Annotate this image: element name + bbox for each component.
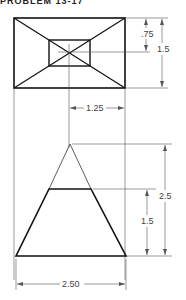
technical-drawing: .75 1.5 1.25 2.5 1.5 xyxy=(0,0,186,300)
apex-construction-line xyxy=(70,144,91,189)
dim-label-075: .75 xyxy=(141,29,154,39)
dim-label-15-top: 1.5 xyxy=(157,44,170,54)
top-view xyxy=(14,18,150,148)
apex-construction-line xyxy=(49,144,70,189)
dim-label-250: 2.50 xyxy=(62,279,80,289)
frustum-outline xyxy=(16,189,126,256)
front-view xyxy=(16,144,126,256)
top-view-dimensions: .75 1.5 1.25 xyxy=(14,18,171,280)
dim-label-15-front: 1.5 xyxy=(141,216,154,226)
dim-label-125: 1.25 xyxy=(86,103,104,113)
front-view-dimensions: 2.5 1.5 2.50 xyxy=(16,144,174,290)
dim-label-25: 2.5 xyxy=(159,191,172,201)
